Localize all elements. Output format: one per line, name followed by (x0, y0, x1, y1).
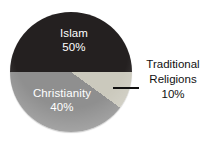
callout-label-traditional-religions: Traditional Religions 10% (140, 57, 206, 102)
slice-percentage: 10% (140, 87, 206, 102)
slice-name: Islam (60, 27, 88, 39)
slice-label-islam: Islam 50% (34, 26, 114, 54)
slice-percentage: 50% (34, 40, 114, 54)
pie-chart-figure: Islam 50% Christianity 40% Traditional R… (0, 0, 210, 142)
slice-percentage: 40% (22, 100, 102, 114)
slice-name: Christianity (33, 87, 91, 99)
slice-label-christianity: Christianity 40% (22, 86, 102, 114)
callout-leader-line (113, 87, 139, 89)
slice-name: Traditional Religions (146, 58, 199, 85)
